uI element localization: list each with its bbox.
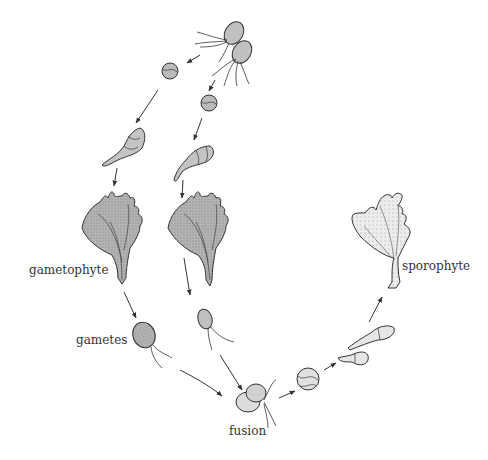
sporophyte [352, 193, 410, 288]
germling-left [102, 128, 145, 166]
label-gametophyte: gametophyte [29, 263, 108, 277]
germling-right [174, 146, 213, 181]
zygote [297, 368, 319, 390]
label-fusion: fusion [229, 424, 266, 438]
gamete-right [196, 308, 234, 350]
young-sporophyte-large [348, 326, 394, 350]
fusion-zygote [236, 380, 276, 428]
label-sporophyte: sporophyte [402, 259, 470, 273]
young-sporophyte-small [338, 352, 368, 365]
gametophyte-right [168, 192, 228, 286]
label-gametes: gametes [76, 333, 127, 347]
gamete-left [129, 319, 172, 368]
spore-right [201, 95, 217, 111]
life-cycle-diagram [0, 0, 488, 460]
spore-left [162, 63, 178, 79]
